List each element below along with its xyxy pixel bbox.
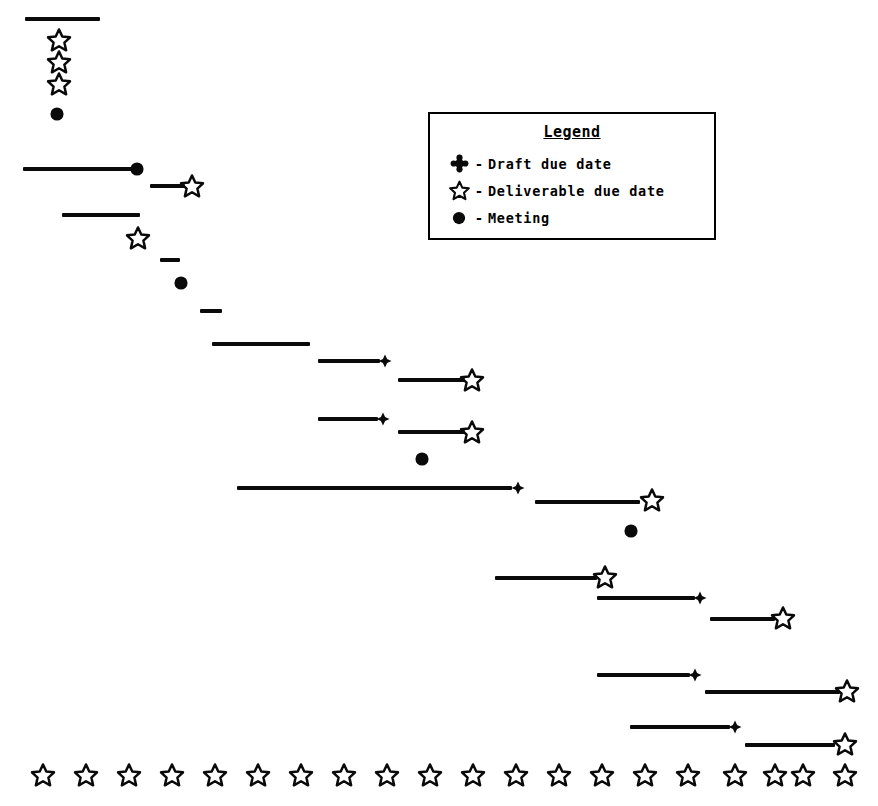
legend-title: Legend [430, 123, 714, 141]
axis-deliverable-marker-icon [418, 763, 443, 788]
axis-deliverable-marker-icon [791, 763, 816, 788]
axis-deliverable-marker-icon [461, 763, 486, 788]
axis-deliverable-marker-icon [547, 763, 572, 788]
gantt-chart: Legend -Draft due date-Deliverable due d… [0, 0, 878, 806]
axis-deliverable-marker-icon [74, 763, 99, 788]
axis-deliverable-marker-icon [117, 763, 142, 788]
legend-entry: -Draft due date [448, 150, 714, 177]
axis-deliverable-marker-icon [203, 763, 228, 788]
axis-deliverable-marker-icon [504, 763, 529, 788]
axis-deliverable-marker-icon [633, 763, 658, 788]
legend-entry: -Deliverable due date [448, 177, 714, 204]
axis-deliverable-marker-icon [763, 763, 788, 788]
axis-deliverable-marker-icon [375, 763, 400, 788]
legend-label: Deliverable due date [488, 183, 665, 199]
legend-entry: -Meeting [448, 204, 714, 231]
axis-deliverable-marker-icon [590, 763, 615, 788]
legend-label: Draft due date [488, 156, 612, 172]
legend-entries: -Draft due date-Deliverable due date-Mee… [430, 150, 714, 231]
legend-label: Meeting [488, 210, 550, 226]
legend: Legend -Draft due date-Deliverable due d… [428, 112, 716, 240]
deliverable-marker-icon [448, 180, 470, 201]
axis-deliverable-marker-icon [332, 763, 357, 788]
legend-separator: - [470, 210, 488, 226]
axis-deliverable-marker-icon [676, 763, 701, 788]
axis-deliverable-marker-icon [723, 763, 748, 788]
legend-separator: - [470, 156, 488, 172]
meeting-marker-icon [448, 211, 470, 225]
axis-deliverable-marker-icon [160, 763, 185, 788]
axis-deliverable-marker-icon [246, 763, 271, 788]
axis-deliverable-marker-icon [833, 763, 858, 788]
axis-deliverable-marker-icon [289, 763, 314, 788]
draft-marker-icon [448, 154, 470, 173]
legend-separator: - [470, 183, 488, 199]
axis-deliverable-marker-icon [31, 763, 56, 788]
